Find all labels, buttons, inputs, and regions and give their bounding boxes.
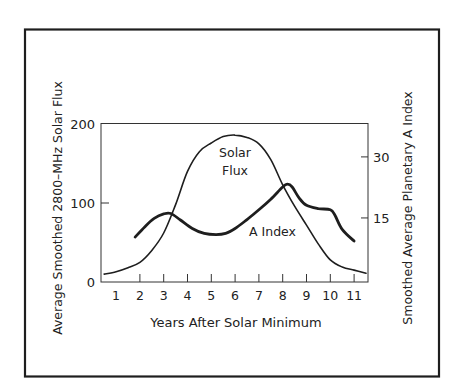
y-tick-label: 0 [87, 275, 95, 290]
a-index-label: A Index [249, 224, 296, 239]
x-tick-label: 2 [136, 288, 144, 303]
y-tick-label: 200 [70, 117, 95, 132]
right-axis-title: Smoothed Average Planetary A Index [400, 91, 415, 324]
x-tick-label: 4 [184, 288, 192, 303]
solar-flux-label-line1: Solar [219, 145, 252, 160]
x-tick-label: 9 [303, 288, 311, 303]
x-tick-label: 8 [279, 288, 287, 303]
x-tick-label: 11 [346, 288, 362, 303]
x-axis-ticks [140, 274, 354, 282]
right-axis-ticks [361, 157, 368, 218]
a-index-line [135, 184, 354, 241]
x-axis-tick-labels: 1234567891011 [112, 288, 362, 303]
x-tick-label: 10 [322, 288, 338, 303]
left-axis-tick-labels: 0100200 [70, 117, 95, 290]
y-right-tick-label: 30 [373, 150, 390, 165]
x-tick-label: 6 [231, 288, 239, 303]
x-tick-label: 1 [112, 288, 120, 303]
chart-figure: 1234567891011 0100200 1530 Solar Flux A … [0, 0, 454, 384]
x-tick-label: 7 [255, 288, 263, 303]
y-tick-label: 100 [70, 196, 95, 211]
solar-flux-label-line2: Flux [222, 163, 248, 178]
x-tick-label: 3 [160, 288, 168, 303]
y-right-tick-label: 15 [373, 211, 390, 226]
x-tick-label: 5 [207, 288, 215, 303]
left-axis-title: Average Smoothed 2800–MHz Solar Flux [50, 81, 65, 335]
right-axis-tick-labels: 1530 [373, 150, 390, 226]
x-axis-title: Years After Solar Minimum [149, 315, 321, 330]
